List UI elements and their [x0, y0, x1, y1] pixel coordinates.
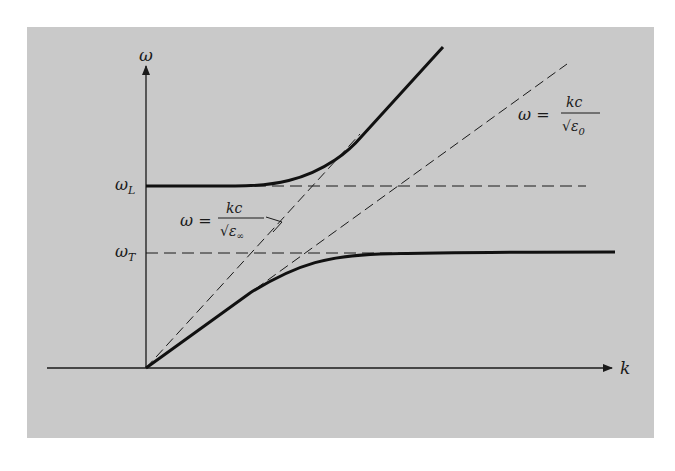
- omega-T-label: ωT: [115, 242, 137, 264]
- eps-0-annotation: ω = kc √ε0: [518, 94, 600, 137]
- eps-inf-light-line: [146, 134, 360, 368]
- upper-branch-curve: [146, 47, 443, 186]
- polariton-dispersion-diagram: ω k ωL ωT ω = kc √ε∞ ω = kc √ε0: [0, 0, 675, 471]
- svg-text:kc: kc: [226, 200, 242, 216]
- svg-text:kc: kc: [566, 94, 582, 110]
- svg-text:ω =: ω =: [518, 105, 550, 124]
- eps-inf-pointer: [266, 217, 282, 232]
- omega-axis-label: ω: [139, 45, 153, 65]
- eps-inf-annotation: ω = kc √ε∞: [180, 200, 264, 241]
- eps-0-denominator: √ε0: [562, 118, 585, 137]
- omega-L-label: ωL: [115, 175, 135, 197]
- k-axis-label: k: [620, 358, 630, 378]
- lower-branch-curve: [146, 252, 615, 368]
- eps-inf-denominator: √ε∞: [220, 223, 244, 241]
- svg-text:ω =: ω =: [180, 211, 212, 230]
